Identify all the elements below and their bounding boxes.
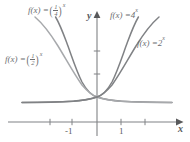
label-quarter-exponent: x (63, 2, 66, 8)
curve-two-power-x (22, 17, 159, 103)
label-half-exponent: x (40, 51, 43, 57)
curve-half-power-x (35, 17, 172, 103)
label-quarter-power-x: f(x) =(14)x (28, 4, 65, 19)
label-quarter-prefix: f(x) = (28, 5, 49, 15)
x-axis (8, 119, 184, 126)
exponential-functions-figure: f(x) =(14)x f(x) =4x f(x) =2x f(x) =(12)… (0, 0, 190, 142)
label-two-prefix: f(x) = (137, 38, 158, 48)
label-half-power-x: f(x) =(12)x (5, 53, 42, 68)
label-half-paren-open: ( (26, 54, 29, 66)
label-quarter-paren-open: ( (49, 5, 52, 17)
label-two-power-x: f(x) =2x (137, 37, 165, 48)
label-four-prefix: f(x) = (110, 10, 131, 20)
label-four-exponent: x (135, 7, 138, 13)
graph-canvas (0, 0, 190, 142)
label-half-paren-close: ) (36, 54, 39, 66)
y-axis-label: y (87, 11, 91, 21)
x-tick-label-one: 1 (119, 127, 124, 136)
curve-quarter-power-x (56, 17, 172, 103)
label-half-prefix: f(x) = (5, 54, 26, 64)
label-two-exponent: x (162, 35, 165, 41)
label-four-power-x: f(x) =4x (110, 9, 138, 20)
x-tick-label-neg-one: -1 (65, 127, 73, 136)
y-axis-arrow (94, 11, 101, 18)
y-axis (94, 11, 101, 136)
label-quarter-paren-close: ) (59, 5, 62, 17)
x-axis-label: x (178, 124, 183, 134)
